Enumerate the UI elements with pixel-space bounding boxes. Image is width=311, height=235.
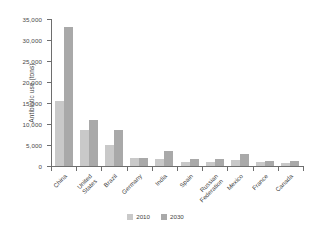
bar-group bbox=[105, 130, 123, 166]
x-axis-tick bbox=[202, 167, 203, 171]
bar bbox=[231, 160, 240, 166]
legend-swatch bbox=[161, 214, 167, 220]
y-axis-label: 10,000 bbox=[22, 121, 42, 128]
x-axis-tick bbox=[177, 167, 178, 171]
bar bbox=[265, 161, 274, 166]
x-axis-tick bbox=[101, 167, 102, 171]
bar bbox=[89, 120, 98, 166]
bar-group bbox=[231, 154, 249, 166]
bar bbox=[240, 154, 249, 166]
bar-group bbox=[155, 151, 173, 166]
bar bbox=[281, 163, 290, 166]
bar bbox=[190, 159, 199, 166]
bar-group bbox=[181, 159, 199, 166]
legend-item[interactable]: 2030 bbox=[161, 213, 184, 220]
bar bbox=[139, 158, 148, 166]
bar bbox=[55, 101, 64, 166]
legend-item[interactable]: 2010 bbox=[127, 213, 150, 220]
y-axis-label: 35,000 bbox=[22, 16, 42, 23]
legend-label: 2030 bbox=[170, 213, 184, 220]
bar-group bbox=[206, 159, 224, 166]
x-axis-tick bbox=[303, 167, 304, 171]
legend-label: 2010 bbox=[136, 213, 150, 220]
x-axis-tick bbox=[152, 167, 153, 171]
antibiotic-use-bar-chart: Antibiotic use (tons) 35,00030,00025,000… bbox=[0, 0, 311, 235]
plot-area bbox=[51, 19, 303, 166]
legend-swatch bbox=[127, 214, 133, 220]
x-axis-tick bbox=[127, 167, 128, 171]
y-axis-label: 25,000 bbox=[22, 58, 42, 65]
bar bbox=[256, 162, 265, 166]
bar bbox=[130, 158, 139, 166]
bar bbox=[164, 151, 173, 166]
bar bbox=[155, 159, 164, 166]
x-axis-tick bbox=[253, 167, 254, 171]
x-axis-tick bbox=[76, 167, 77, 171]
y-axis-label: 20,000 bbox=[22, 79, 42, 86]
bar-group bbox=[130, 158, 148, 166]
x-axis-tick bbox=[51, 167, 52, 171]
bar-group bbox=[281, 161, 299, 166]
y-axis-label: 15,000 bbox=[22, 100, 42, 107]
bar bbox=[64, 27, 73, 166]
bar bbox=[80, 130, 89, 166]
y-axis-label: 0 bbox=[38, 163, 42, 170]
chart-legend: 20102030 bbox=[0, 213, 311, 220]
bar-group bbox=[55, 27, 73, 166]
y-axis-label: 5,000 bbox=[26, 142, 42, 149]
y-axis-label: 30,000 bbox=[22, 37, 42, 44]
bar bbox=[181, 162, 190, 166]
y-axis-title: Antibiotic use (tons) bbox=[28, 63, 35, 122]
bar-group bbox=[256, 161, 274, 166]
bar bbox=[114, 130, 123, 166]
bar-group bbox=[80, 120, 98, 166]
bar bbox=[215, 159, 224, 166]
x-axis-tick bbox=[278, 167, 279, 171]
bar bbox=[290, 161, 299, 166]
x-axis-tick bbox=[227, 167, 228, 171]
y-axis-title-container: Antibiotic use (tons) bbox=[4, 19, 18, 166]
bar bbox=[206, 162, 215, 166]
bar bbox=[105, 145, 114, 166]
